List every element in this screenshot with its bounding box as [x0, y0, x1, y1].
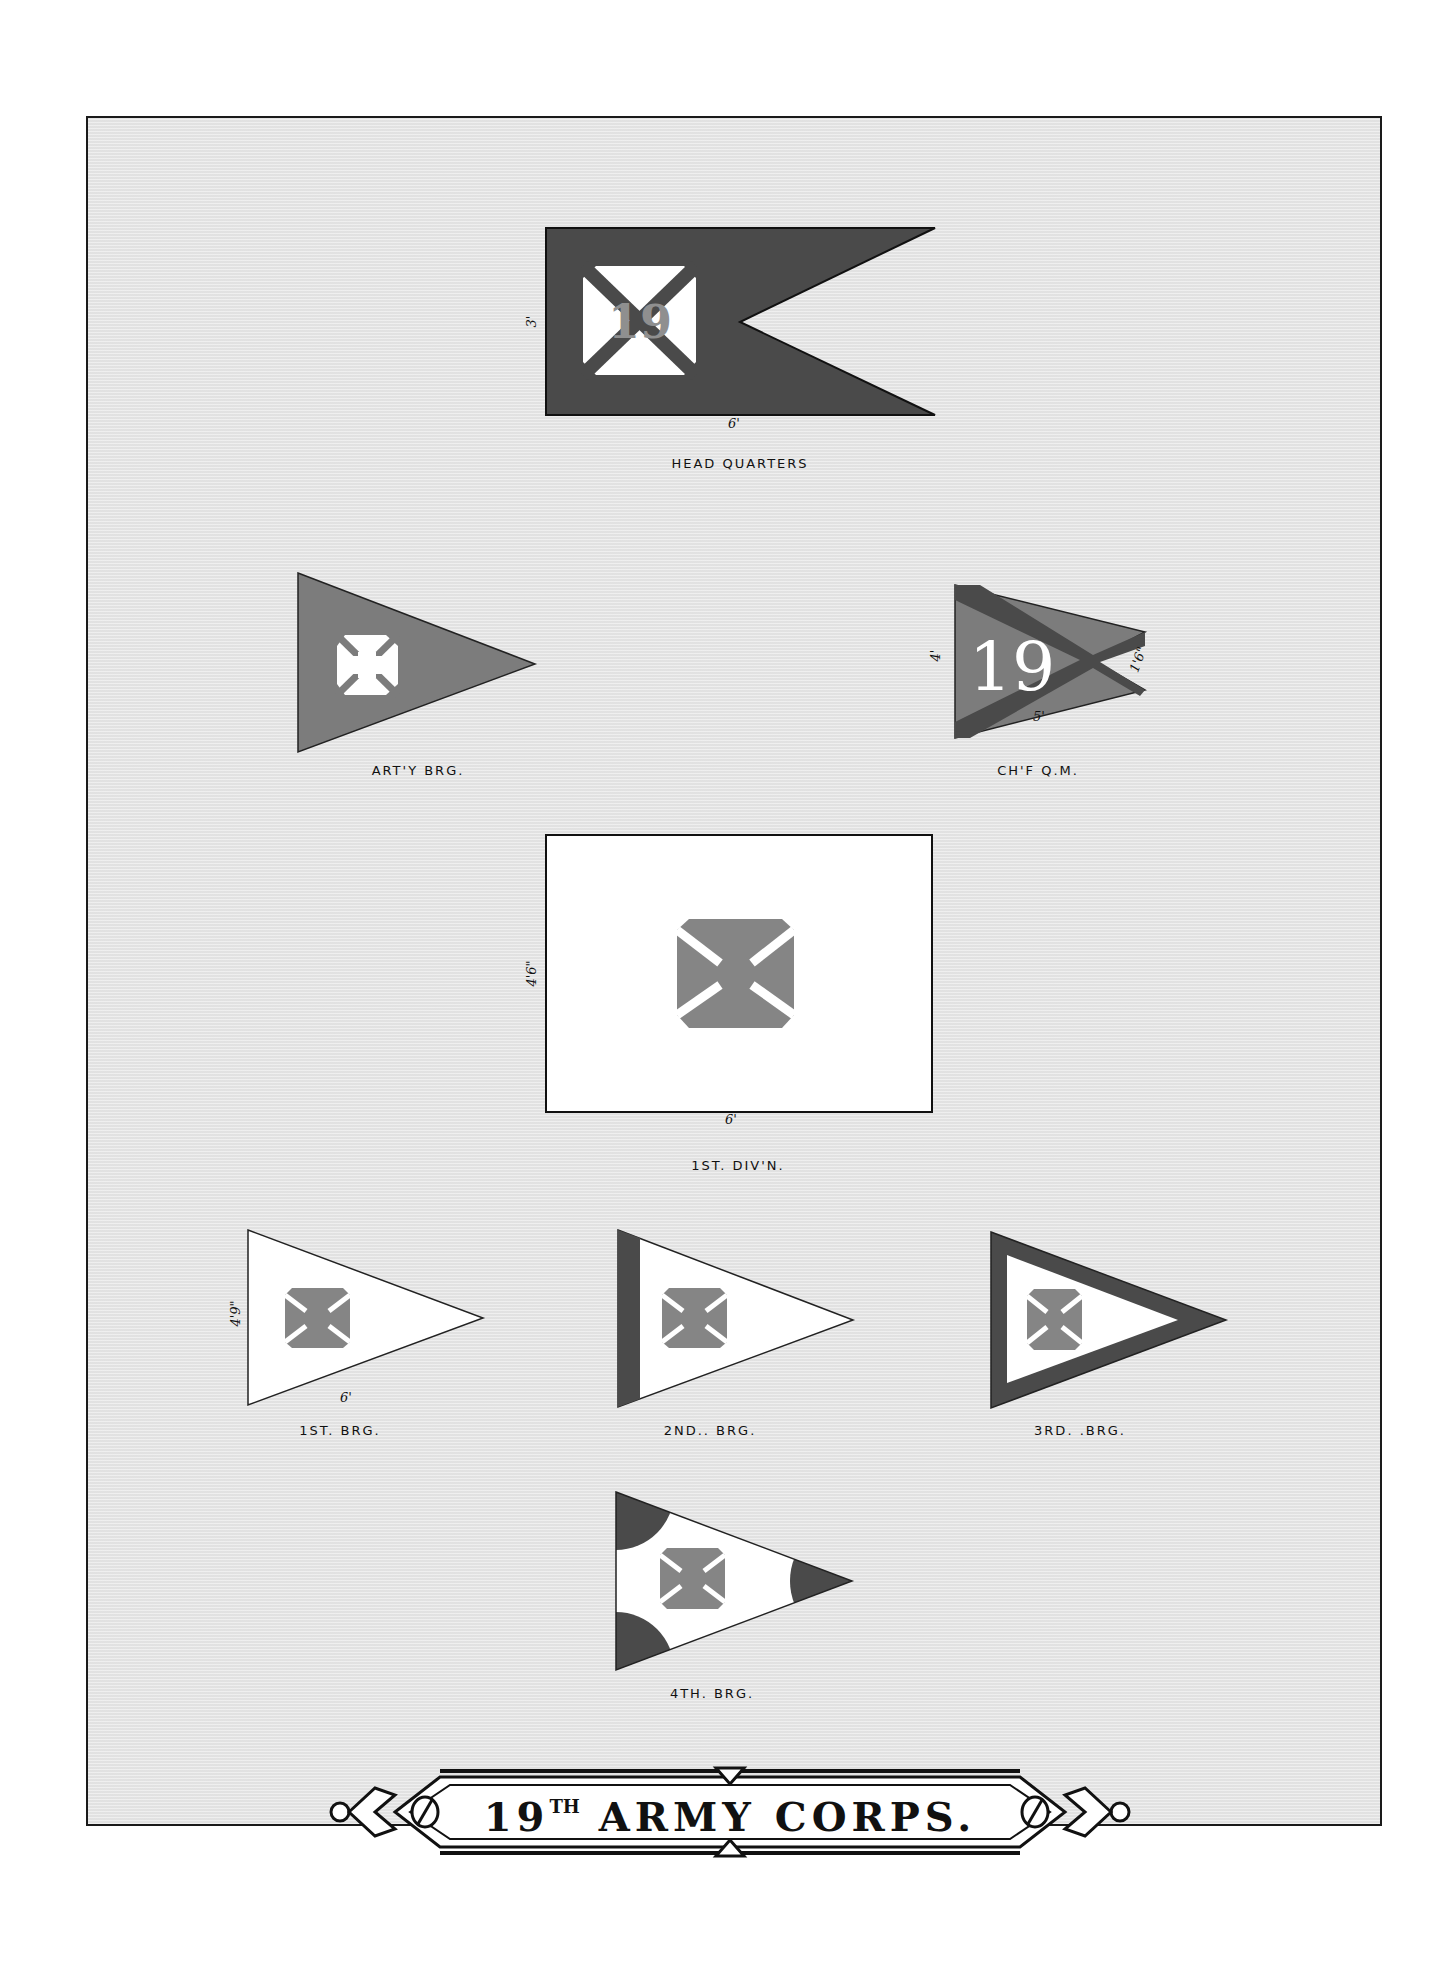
hq-flag: 19 [546, 228, 935, 415]
label-chf-qm: CH'F Q.M. [997, 763, 1079, 778]
title-ordinal: TH [549, 1796, 579, 1817]
title-text: ARMY CORPS. [599, 1793, 976, 1840]
brg3-flag [991, 1232, 1226, 1408]
dim-div-height: 4'6" [524, 960, 539, 986]
plate-title: 19TH ARMY CORPS. [430, 1797, 1030, 1837]
label-hq: HEAD QUARTERS [671, 456, 808, 471]
qm-numeral: 19 [969, 627, 1056, 706]
dim-brg1-height: 4'9" [228, 1300, 243, 1326]
dim-brg1-width: 6' [340, 1390, 352, 1405]
chf-qm-flag: 19 [955, 585, 1145, 738]
hq-numeral: 19 [608, 295, 672, 349]
label-brg3: 3RD. .BRG. [1034, 1423, 1126, 1438]
title-number: 19 [484, 1793, 550, 1840]
brg2-flag [618, 1230, 853, 1407]
label-brg2: 2ND.. BRG. [664, 1423, 757, 1438]
dim-qm-width: 5' [1033, 709, 1045, 724]
dim-qm-height: 4' [928, 650, 943, 662]
div1-flag [546, 835, 932, 1112]
label-brg4: 4TH. BRG. [670, 1686, 754, 1701]
label-div1: 1ST. DIV'N. [691, 1158, 784, 1173]
arty-flag [298, 573, 535, 752]
dim-hq-width: 6' [728, 416, 740, 431]
brg4-flag [558, 1434, 914, 1728]
dim-div-width: 6' [725, 1112, 737, 1127]
dim-hq-height: 3' [524, 316, 539, 328]
flags-artwork: 19 19 [0, 0, 1449, 1972]
brg1-flag [248, 1230, 483, 1405]
label-arty: ART'Y BRG. [372, 763, 465, 778]
label-brg1: 1ST. BRG. [299, 1423, 380, 1438]
